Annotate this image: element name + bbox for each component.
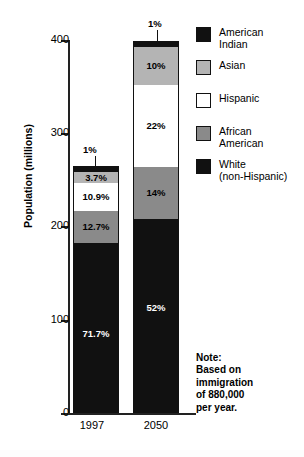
legend-label-white: White (non-Hispanic)	[219, 158, 287, 182]
segment-label-1997-african-american: 12.7%	[83, 222, 110, 232]
segment-1997-asian[interactable]: 3.7%	[73, 172, 119, 183]
y-tick-label-0: 0	[37, 406, 69, 418]
segment-label-2050-asian: 10%	[146, 61, 165, 71]
y-tick-label-300: 300	[37, 126, 69, 138]
legend-swatch-asian	[196, 60, 211, 75]
callout-leader-1997	[95, 156, 96, 167]
y-tick-label-200: 200	[37, 219, 69, 231]
y-axis-title: Population (millions)	[22, 96, 34, 256]
legend-item-asian[interactable]: Asian	[196, 59, 302, 83]
segment-1997-hispanic[interactable]: 10.9%	[73, 183, 119, 211]
callout-leader-2050	[157, 30, 158, 42]
segment-2050-hispanic[interactable]: 22%	[133, 85, 179, 167]
stacked-bar-chart: Population (millions) 400 300 200 100 0 …	[0, 0, 304, 457]
legend-label-hispanic: Hispanic	[219, 92, 259, 104]
legend-label-african-american: African American	[219, 125, 263, 149]
legend-swatch-hispanic	[196, 93, 211, 108]
callout-label-1997-american-indian: 1%	[83, 144, 97, 155]
y-tick-label-400: 400	[37, 33, 69, 45]
segment-2050-asian[interactable]: 10%	[133, 47, 179, 85]
segment-2050-african-american[interactable]: 14%	[133, 167, 179, 219]
segment-2050-white[interactable]: 52%	[133, 219, 179, 413]
segment-1997-african-american[interactable]: 12.7%	[73, 211, 119, 243]
segment-label-1997-white: 71.7%	[83, 329, 110, 339]
x-axis-line	[68, 413, 196, 415]
callout-label-2050-american-indian: 1%	[148, 18, 162, 29]
page-edge	[0, 450, 304, 457]
x-tick-label-1997: 1997	[62, 419, 122, 431]
x-tick-label-2050: 2050	[126, 419, 186, 431]
legend-swatch-white	[196, 159, 211, 174]
legend-label-american-indian: American Indian	[219, 26, 263, 50]
chart-note: Note: Based on immigration of 880,000 pe…	[196, 352, 300, 414]
legend-item-african-american[interactable]: African American	[196, 125, 302, 149]
segment-label-1997-asian: 3.7%	[85, 173, 107, 183]
segment-label-1997-hispanic: 10.9%	[83, 192, 110, 202]
legend-item-white[interactable]: White (non-Hispanic)	[196, 158, 302, 182]
legend-item-american-indian[interactable]: American Indian	[196, 26, 302, 50]
segment-label-2050-hispanic: 22%	[146, 121, 165, 131]
legend: American Indian Asian Hispanic African A…	[196, 26, 302, 191]
segment-1997-white[interactable]: 71.7%	[73, 243, 119, 413]
segment-label-2050-white: 52%	[146, 303, 165, 313]
y-tick-label-100: 100	[37, 313, 69, 325]
legend-label-asian: Asian	[219, 59, 245, 71]
legend-swatch-american-indian	[196, 27, 211, 42]
legend-item-hispanic[interactable]: Hispanic	[196, 92, 302, 116]
segment-label-2050-african-american: 14%	[146, 188, 165, 198]
legend-swatch-african-american	[196, 126, 211, 141]
